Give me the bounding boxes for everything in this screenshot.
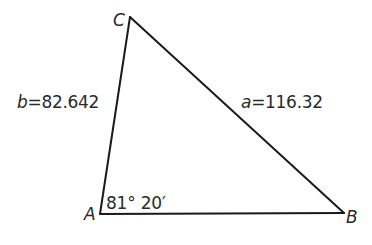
side-c-line	[100, 213, 344, 214]
side-b-equals: =	[28, 92, 42, 112]
vertex-label-c: C	[113, 12, 125, 29]
side-a-value: 116.32	[265, 92, 323, 112]
side-b-variable: b	[17, 92, 28, 112]
side-a-equals: =	[251, 92, 265, 112]
vertex-label-a: A	[84, 206, 96, 223]
side-a-line	[130, 17, 344, 213]
vertex-label-b: B	[346, 209, 358, 226]
side-b-line	[100, 17, 130, 214]
side-b-label: b=82.642	[17, 94, 99, 111]
triangle-diagram	[0, 0, 372, 245]
side-a-variable: a	[241, 92, 251, 112]
side-a-label: a=116.32	[241, 94, 323, 111]
angle-a-label: 81° 20′	[106, 195, 166, 212]
side-b-value: 82.642	[41, 92, 99, 112]
